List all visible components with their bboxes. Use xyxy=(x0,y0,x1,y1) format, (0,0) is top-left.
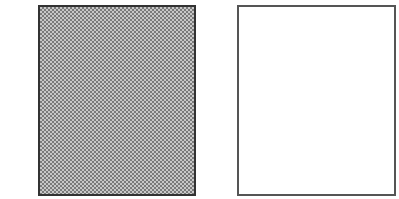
filled-pattern-rectangle xyxy=(38,5,196,196)
empty-rectangle xyxy=(237,5,396,196)
